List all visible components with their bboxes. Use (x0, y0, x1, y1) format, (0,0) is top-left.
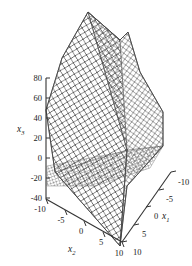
x1-tick-label: -5 (166, 194, 173, 204)
x3-tick-label: -40 (31, 193, 42, 203)
x2-tick-label: 0 (79, 226, 83, 236)
x2-axis-label: x2 (67, 244, 76, 256)
x3-tick-labels: 80 60 40 20 0 -20 -40 (31, 73, 42, 203)
x2-tick-label: 5 (99, 237, 103, 247)
x2-tick-label: -5 (57, 215, 64, 225)
x3-tick-label: 0 (38, 153, 42, 163)
x2-tick-label: -10 (34, 204, 45, 214)
x3-tick-label: -20 (31, 173, 42, 183)
x3-axis-label: x3 (16, 124, 25, 136)
x1-tick-label: 0 (154, 211, 158, 221)
surface-plot-figure: 80 60 40 20 0 -20 -40 -10 -5 0 5 10 10 5… (0, 0, 192, 266)
x3-tick-label: 60 (34, 93, 43, 103)
x3-tick-label: 20 (34, 133, 43, 143)
x3-tick-label: 40 (34, 113, 43, 123)
x1-axis-label: x1 (161, 211, 169, 223)
x3-tick-label: 80 (34, 73, 43, 83)
x2-tick-label: 10 (115, 248, 124, 258)
x1-tick-label: 10 (133, 247, 142, 257)
plot-canvas: 80 60 40 20 0 -20 -40 -10 -5 0 5 10 10 5… (0, 0, 192, 266)
x1-tick-label: -10 (178, 177, 189, 187)
x1-tick-label: 5 (142, 229, 146, 239)
